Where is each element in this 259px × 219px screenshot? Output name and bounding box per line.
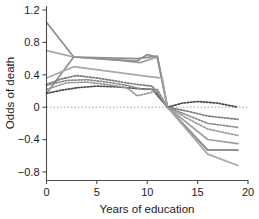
x-tick-label: 10 (141, 186, 153, 198)
y-tick-label: 1.2 (24, 4, 39, 16)
x-tick-label: 5 (94, 186, 100, 198)
y-tick-label: 0.8 (24, 36, 39, 48)
x-axis-title: Years of education (100, 203, 195, 215)
x-tick-label: 20 (242, 186, 254, 198)
y-tick-label: −0.4 (18, 133, 40, 145)
y-axis-title: Odds of death (4, 57, 16, 129)
y-tick-label: 0.4 (24, 69, 39, 81)
y-tick-label: 0 (33, 101, 39, 113)
x-tick-label: 15 (192, 186, 204, 198)
chart-container: 1.20.80.40−0.4−0.8 05101520 Years of edu… (0, 0, 259, 219)
y-tick-label: −0.8 (18, 166, 40, 178)
odds-of-death-line-chart: 1.20.80.40−0.4−0.8 05101520 Years of edu… (0, 0, 259, 219)
x-tick-label: 0 (43, 186, 49, 198)
